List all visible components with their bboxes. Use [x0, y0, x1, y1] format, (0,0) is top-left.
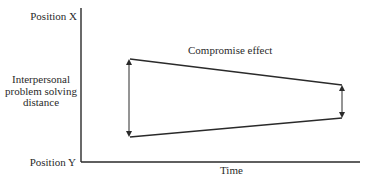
- upper-position-line: [130, 59, 342, 85]
- y-axis-bottom-label: Position Y: [30, 156, 76, 168]
- lower-position-line: [130, 118, 342, 137]
- y-axis-title: Interpersonal problem solving distance: [4, 74, 78, 109]
- compromise-effect-diagram: Position X Interpersonal problem solving…: [0, 0, 365, 189]
- x-axis-title: Time: [220, 164, 243, 176]
- y-axis-title-line-1: Interpersonal: [4, 74, 78, 86]
- y-axis-top-label: Position X: [30, 10, 77, 22]
- compromise-effect-annotation: Compromise effect: [188, 44, 272, 56]
- y-axis-title-line-3: distance: [4, 97, 78, 109]
